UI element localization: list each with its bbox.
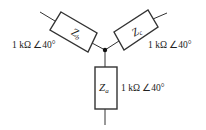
wye-network-diagram: Zb Zc Za 1 kΩ ∠40° 1 kΩ ∠40° 1 kΩ ∠40° [0,0,206,130]
impedance-za: Za [95,67,117,109]
wire-zc-inner [105,41,119,50]
zb-value-label: 1 kΩ ∠40° [12,40,56,50]
wire-zb-inner [92,43,105,50]
wire-zc-outer [153,13,167,19]
impedance-zb: Zb [50,12,97,52]
za-value-label: 1 kΩ ∠40° [121,83,165,93]
zc-value-label: 1 kΩ ∠40° [148,40,192,50]
wire-zb-outer [40,12,55,21]
junction-node [103,48,107,52]
